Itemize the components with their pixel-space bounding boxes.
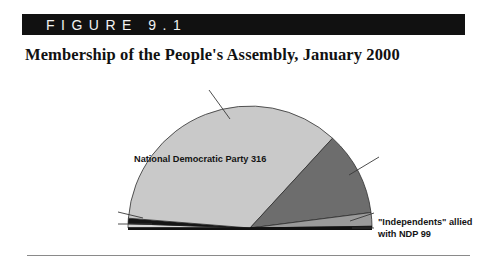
figure-title: Membership of the People's Assembly, Jan… — [25, 45, 455, 65]
pie-chart: National Democratic Party 316 "Independe… — [0, 72, 493, 247]
bottom-divider — [27, 255, 470, 256]
figure-page: FIGURE 9.1 Membership of the People's As… — [0, 0, 493, 275]
label-national-democratic-party: National Democratic Party 316 — [134, 154, 266, 166]
label-independents-allied-with-ndp: "Independents" allied with NDP 99 — [378, 217, 490, 240]
figure-number-bar: FIGURE 9.1 — [22, 14, 465, 35]
figure-number-label: FIGURE 9.1 — [46, 17, 187, 33]
